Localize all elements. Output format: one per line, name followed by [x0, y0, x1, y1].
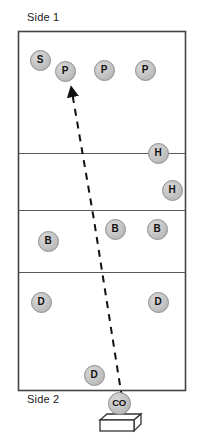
player-token-passer-3[interactable]: P [135, 60, 156, 81]
player-token-passer-1[interactable]: P [55, 61, 76, 82]
player-token-coach[interactable]: CO [108, 392, 131, 415]
player-token-blocker-3[interactable]: B [147, 219, 168, 240]
coach-box [100, 414, 141, 431]
player-token-defender-3[interactable]: D [84, 365, 105, 386]
player-token-blocker-2[interactable]: B [105, 219, 126, 240]
volleyball-court-diagram: Side 1 Side 2 SPPPHHBBBDDDCO [0, 0, 199, 443]
player-token-setter-1[interactable]: S [30, 50, 51, 71]
player-token-defender-2[interactable]: D [148, 292, 169, 313]
player-token-defender-1[interactable]: D [31, 292, 52, 313]
side-1-label: Side 1 [27, 11, 59, 23]
player-token-blocker-1[interactable]: B [38, 231, 59, 252]
player-token-passer-2[interactable]: P [94, 60, 115, 81]
player-token-hitter-1[interactable]: H [148, 143, 169, 164]
side-2-label: Side 2 [27, 393, 59, 405]
player-token-hitter-2[interactable]: H [162, 180, 183, 201]
